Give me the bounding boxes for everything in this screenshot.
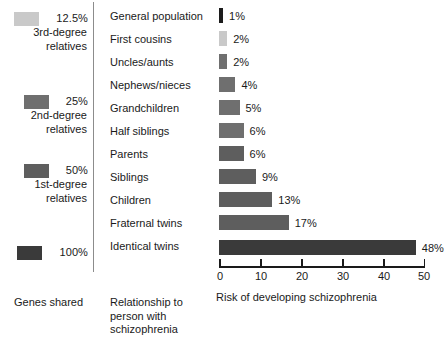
x-axis-tick-label-40: 40 xyxy=(378,270,390,283)
legend-row: 50% xyxy=(0,163,88,178)
x-axis-tick-label-30: 30 xyxy=(337,270,349,283)
bar-row: 48% xyxy=(219,240,444,255)
relationship-label-identical-twins: Identical twins xyxy=(110,240,179,253)
legend-percent-25: 25% xyxy=(66,95,88,108)
bar-siblings xyxy=(219,169,256,184)
bar-parents xyxy=(219,146,244,161)
bar-row: 4% xyxy=(219,77,257,92)
caption-relationship: Relationship to person with schizophreni… xyxy=(110,296,205,337)
schizophrenia-risk-chart-figure: 12.5% 3rd-degree relatives 25% 2nd-degre… xyxy=(0,0,447,342)
legend-entry-25: 25% 2nd-degree relatives xyxy=(0,94,88,136)
bar-row: 2% xyxy=(219,31,249,46)
genes-shared-legend: 12.5% 3rd-degree relatives 25% 2nd-degre… xyxy=(0,0,88,275)
legend-row: 25% xyxy=(0,94,88,109)
plot-area: 1% 2% 2% 4% 5% 6% xyxy=(219,0,425,264)
bar-half-siblings xyxy=(219,123,244,138)
x-axis-tick-label-20: 20 xyxy=(296,270,308,283)
x-axis-tick-label-50: 50 xyxy=(418,270,430,283)
column-divider xyxy=(93,2,94,272)
legend-swatch-25 xyxy=(24,95,49,109)
bar-row: 13% xyxy=(219,192,300,207)
x-axis-cap-left xyxy=(219,259,221,267)
relationship-label-uncles-aunts: Uncles/aunts xyxy=(110,56,174,69)
relationship-label-general-population: General population xyxy=(110,10,203,23)
bar-row: 6% xyxy=(219,123,266,138)
x-axis-tick-30 xyxy=(342,259,344,267)
bar-row: 1% xyxy=(219,8,245,23)
x-axis-cap-right xyxy=(424,259,426,267)
legend-entry-100: 100% xyxy=(0,245,88,260)
relationship-label-nephews-nieces: Nephews/nieces xyxy=(110,79,191,92)
relationship-label-children: Children xyxy=(110,194,151,207)
bar-row: 17% xyxy=(219,215,317,230)
bar-row: 9% xyxy=(219,169,278,184)
x-axis-line xyxy=(219,266,425,268)
legend-swatch-100 xyxy=(17,246,42,260)
x-axis-tick-label-10: 10 xyxy=(255,270,267,283)
bar-nephews-nieces xyxy=(219,77,235,92)
x-axis-tick-20 xyxy=(301,259,303,267)
bar-value-nephews-nieces: 4% xyxy=(241,79,257,91)
legend-row: 100% xyxy=(0,245,88,260)
bar-uncles-aunts xyxy=(219,54,227,69)
bar-row: 5% xyxy=(219,100,261,115)
legend-row: 12.5% xyxy=(0,11,88,26)
x-axis-tick-10 xyxy=(260,259,262,267)
legend-entry-12-5: 12.5% 3rd-degree relatives xyxy=(0,11,88,53)
bar-row: 2% xyxy=(219,54,249,69)
bar-value-fraternal-twins: 17% xyxy=(295,217,317,229)
bar-general-population xyxy=(219,8,223,23)
legend-percent-50: 50% xyxy=(66,164,88,177)
legend-sublabel-25: 2nd-degree relatives xyxy=(0,109,88,136)
legend-percent-100: 100% xyxy=(59,246,88,259)
legend-percent-12-5: 12.5% xyxy=(56,12,88,25)
legend-sublabel-12-5: 3rd-degree relatives xyxy=(0,26,88,53)
bar-row: 6% xyxy=(219,146,266,161)
relationship-label-column: General population First cousins Uncles/… xyxy=(110,0,215,275)
bar-value-half-siblings: 6% xyxy=(250,125,266,137)
bar-value-siblings: 9% xyxy=(262,171,278,183)
relationship-label-parents: Parents xyxy=(110,148,148,161)
bar-first-cousins xyxy=(219,31,227,46)
bar-chart-column: 1% 2% 2% 4% 5% 6% xyxy=(219,0,447,300)
bar-grandchildren xyxy=(219,100,240,115)
caption-genes-shared: Genes shared xyxy=(14,296,94,310)
legend-swatch-12-5 xyxy=(14,12,39,26)
legend-swatch-50 xyxy=(24,164,49,178)
relationship-label-grandchildren: Grandchildren xyxy=(110,102,179,115)
bar-value-grandchildren: 5% xyxy=(246,102,262,114)
legend-sublabel-50: 1st-degree relatives xyxy=(0,178,88,205)
bar-value-uncles-aunts: 2% xyxy=(233,56,249,68)
bar-value-identical-twins: 48% xyxy=(422,242,444,254)
relationship-label-half-siblings: Half siblings xyxy=(110,125,169,138)
bar-value-first-cousins: 2% xyxy=(233,33,249,45)
legend-entry-50: 50% 1st-degree relatives xyxy=(0,163,88,205)
bar-value-children: 13% xyxy=(278,194,300,206)
relationship-label-siblings: Siblings xyxy=(110,171,149,184)
bar-identical-twins xyxy=(219,240,416,255)
bar-fraternal-twins xyxy=(219,215,289,230)
x-axis-tick-40 xyxy=(383,259,385,267)
bar-value-general-population: 1% xyxy=(229,10,245,22)
relationship-label-fraternal-twins: Fraternal twins xyxy=(110,217,182,230)
relationship-label-first-cousins: First cousins xyxy=(110,33,172,46)
bar-children xyxy=(219,192,272,207)
bar-value-parents: 6% xyxy=(250,148,266,160)
x-axis-title: Risk of developing schizophrenia xyxy=(216,291,377,304)
x-axis-tick-label-0: 0 xyxy=(217,270,223,283)
